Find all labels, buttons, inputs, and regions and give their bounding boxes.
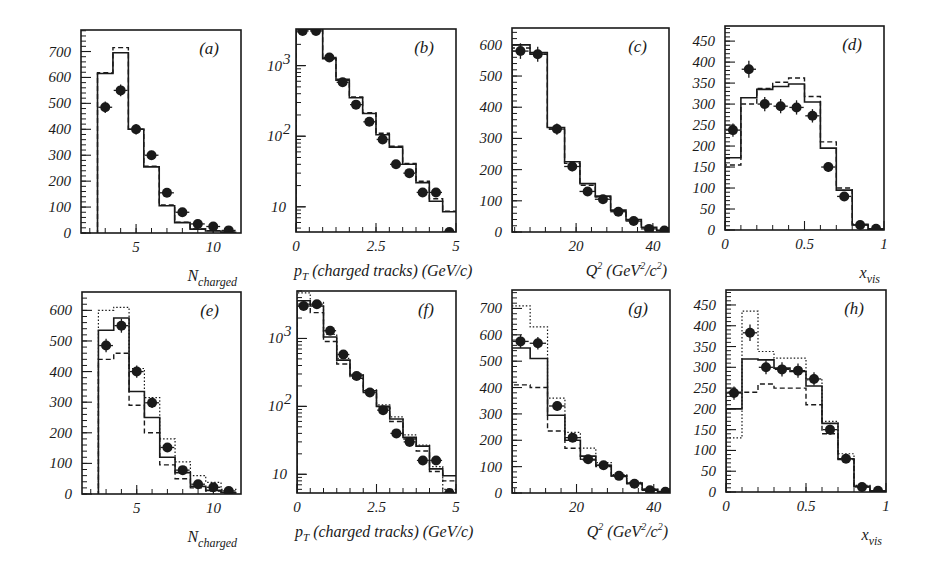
data-point: [629, 216, 639, 226]
y-tick-label: 600: [480, 37, 503, 53]
plot-area: [297, 293, 456, 498]
x-tick-label: 0: [293, 499, 301, 515]
panel-g: 20400100200300400500600700(g)Q2 (GeV2/c2…: [479, 290, 674, 541]
y-tick-label: 100: [693, 180, 716, 196]
y-tick-label: 400: [480, 99, 503, 115]
data-point: [418, 455, 428, 465]
x-axis-label: Ncharged: [186, 267, 238, 289]
y-tick-label: 600: [480, 327, 503, 343]
data-point: [777, 364, 787, 374]
data-point: [116, 85, 126, 95]
data-point: [873, 486, 883, 496]
x-tick-label: 20: [569, 499, 585, 515]
plot-area: [98, 307, 236, 496]
y-tick-label: 150: [694, 422, 717, 438]
y-tick-label: 100: [480, 193, 503, 209]
y-tick-label: 10: [267, 128, 283, 144]
data-point: [823, 162, 833, 172]
data-point: [193, 479, 203, 489]
data-point: [325, 326, 335, 336]
x-axis-label: Ncharged: [186, 528, 238, 550]
data-point: [364, 117, 374, 127]
x-tick-label: 0: [721, 236, 729, 252]
y-tick-label: 250: [694, 380, 717, 396]
histogram-solid: [726, 359, 886, 494]
data-point: [298, 26, 308, 36]
data-point: [116, 321, 126, 331]
y-tick-label: 700: [49, 44, 72, 60]
y-tick-label: 500: [50, 333, 73, 349]
data-point: [871, 224, 881, 234]
histogram-solid: [98, 53, 237, 235]
y-tick-label: 600: [50, 302, 73, 318]
y-tick-label: 400: [694, 318, 717, 334]
y-tick-label: 300: [49, 394, 73, 410]
x-axis-label: pT (charged tracks) (GeV/c): [293, 262, 472, 282]
data-point: [552, 124, 562, 134]
x-axis-label: xvis: [859, 264, 881, 286]
data-point: [162, 442, 172, 452]
histogram-dotted: [98, 307, 236, 496]
data-point: [583, 186, 593, 196]
data-point: [809, 374, 819, 384]
x-tick-label: 1: [880, 236, 888, 252]
data-point: [131, 124, 141, 134]
data-point: [132, 367, 142, 377]
data-point: [533, 338, 543, 348]
y-tick-label: 700: [480, 300, 503, 316]
axes-frame: [726, 290, 886, 492]
x-axis-label: Q2 (GeV2/c2): [587, 521, 668, 541]
histogram-dashed: [98, 48, 237, 235]
y-tick-label: 10: [271, 199, 287, 215]
y-tick-label: 400: [693, 54, 716, 70]
data-point: [311, 26, 321, 36]
x-tick-label: 1: [882, 498, 890, 514]
data-point: [745, 328, 755, 338]
data-point: [351, 100, 361, 110]
y-tick-label: 600: [49, 69, 72, 85]
x-axis-label: xvis: [861, 526, 883, 548]
y-tick-label: 200: [694, 401, 717, 417]
data-point: [177, 207, 187, 217]
x-tick-label: 0: [292, 238, 300, 254]
y-tick-label: 10: [267, 58, 283, 74]
histogram-solid: [512, 45, 669, 234]
x-tick-label: 40: [646, 499, 662, 515]
y-tick-label: 400: [49, 121, 72, 137]
data-point: [761, 362, 771, 372]
histogram-solid: [512, 348, 670, 495]
y-tick-label: 400: [480, 380, 503, 396]
y-tick-label: 450: [693, 33, 716, 49]
histogram-dashed: [296, 29, 456, 234]
y-tick-label: 100: [49, 199, 72, 215]
x-tick-label: 40: [645, 238, 661, 254]
y-tick-label: 50: [700, 201, 716, 217]
y-tick-label: 150: [693, 159, 716, 175]
plot-area: [512, 306, 674, 497]
x-tick-label: 0: [722, 498, 730, 514]
histogram-dashed: [512, 385, 670, 495]
y-tick-label: 0: [64, 225, 72, 241]
x-tick-label: 5: [452, 499, 460, 515]
data-point: [567, 161, 577, 171]
data-point: [552, 401, 562, 411]
y-tick-label: 100: [694, 442, 717, 458]
x-tick-label: 5: [133, 500, 141, 516]
panel-f: 02.5510102103(f)pT (charged tracks) (GeV…: [268, 291, 473, 543]
y-tick-label: 200: [50, 425, 73, 441]
y-tick-label: 0: [495, 485, 503, 501]
panel-tag: (e): [200, 301, 219, 320]
data-point: [352, 371, 362, 381]
panel-e: 5100100200300400500600(e)Ncharged: [49, 292, 242, 550]
y-tick-label: 350: [693, 339, 717, 355]
data-point: [312, 299, 322, 309]
y-tick-label: 200: [480, 432, 503, 448]
axes-frame: [725, 26, 884, 230]
data-point: [841, 454, 851, 464]
figure: 5100100200300400500600700(a)Ncharged02.5…: [0, 0, 931, 564]
data-point: [598, 194, 608, 204]
y-tick-exponent: 3: [283, 323, 292, 339]
x-tick-label: 20: [569, 238, 585, 254]
y-tick-label: 400: [50, 364, 73, 380]
x-tick-label: 10: [206, 239, 222, 255]
